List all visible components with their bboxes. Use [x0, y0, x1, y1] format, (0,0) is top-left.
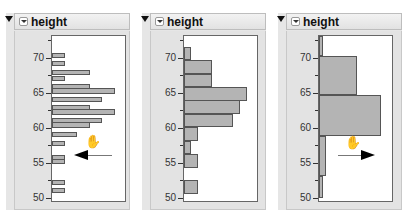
axis-tick [313, 163, 318, 164]
panel-title: height [303, 14, 339, 30]
axis-tick-label: 70 [24, 53, 44, 63]
axis-minor-tick [180, 180, 183, 181]
axis-tick-label: 70 [156, 53, 176, 63]
histogram-bar[interactable] [319, 176, 323, 198]
histogram-bar[interactable] [319, 136, 326, 176]
disclosure-triangle-icon[interactable] [5, 16, 13, 22]
histogram-bar[interactable] [184, 154, 198, 168]
histogram-bar[interactable] [52, 97, 102, 102]
axis-tick [178, 58, 183, 59]
axis-tick-label: 60 [156, 123, 176, 133]
axis-tick [46, 58, 51, 59]
histogram-bar[interactable] [52, 88, 115, 94]
axis-tick [313, 128, 318, 129]
histogram-bar[interactable] [52, 132, 77, 137]
histogram-bar[interactable] [52, 70, 90, 75]
histogram-bar[interactable] [52, 53, 65, 58]
histogram-bar[interactable] [52, 76, 65, 81]
axis-minor-tick [315, 180, 318, 181]
axis-minor-tick [315, 40, 318, 41]
axis-minor-tick [48, 40, 51, 41]
histogram-bar[interactable] [184, 127, 198, 141]
axis-minor-tick [315, 110, 318, 111]
axis-tick [46, 198, 51, 199]
axis-tick-label: 65 [156, 88, 176, 98]
axis-minor-tick [180, 75, 183, 76]
axis-minor-tick [48, 110, 51, 111]
axis-tick-label: 55 [24, 158, 44, 168]
axis-tick-label: 55 [156, 158, 176, 168]
axis-tick [46, 93, 51, 94]
red-triangle-menu-icon[interactable] [155, 17, 164, 26]
axis-tick [313, 198, 318, 199]
axis-tick [46, 128, 51, 129]
arrow-right-icon [361, 150, 375, 160]
histogram-bar[interactable] [319, 36, 323, 56]
axis-tick-label: 50 [24, 193, 44, 203]
grabber-hand-icon: ✋ [345, 136, 361, 149]
axis-tick-label: 55 [291, 158, 311, 168]
arrow-shaft [88, 155, 112, 156]
axis-tick [178, 128, 183, 129]
axis-minor-tick [180, 145, 183, 146]
histogram-bar[interactable] [184, 47, 191, 60]
axis-tick-label: 50 [291, 193, 311, 203]
axis-tick [313, 58, 318, 59]
axis-tick-label: 65 [24, 88, 44, 98]
axis-tick-label: 50 [156, 193, 176, 203]
disclosure-triangle-icon[interactable] [141, 16, 149, 22]
axis-minor-tick [315, 145, 318, 146]
axis-minor-tick [48, 145, 51, 146]
red-triangle-menu-icon[interactable] [19, 17, 28, 26]
axis-tick [178, 163, 183, 164]
arrow-shaft [338, 155, 362, 156]
histogram-bar[interactable] [52, 61, 65, 66]
histogram-bar[interactable] [52, 122, 90, 128]
axis-minor-tick [180, 40, 183, 41]
histogram-bar[interactable] [184, 74, 212, 87]
arrow-left-icon [74, 150, 88, 160]
panel-title: height [167, 14, 203, 30]
axis-tick [313, 93, 318, 94]
axis-tick-label: 65 [291, 88, 311, 98]
panel-title: height [31, 14, 67, 30]
histogram-bar[interactable] [184, 87, 247, 101]
histogram-bar[interactable] [184, 141, 191, 154]
axis-tick [46, 163, 51, 164]
histogram-bar[interactable] [52, 109, 115, 115]
histogram-bar[interactable] [52, 188, 65, 193]
histogram-bar[interactable] [52, 180, 65, 185]
histogram-bar[interactable] [319, 56, 357, 95]
histogram-bar[interactable] [52, 141, 65, 146]
disclosure-triangle-icon[interactable] [277, 16, 285, 22]
axis-minor-tick [180, 110, 183, 111]
histogram-bar[interactable] [184, 100, 240, 114]
axis-tick-label: 70 [291, 53, 311, 63]
axis-minor-tick [48, 180, 51, 181]
axis-tick [178, 198, 183, 199]
axis-tick-label: 60 [291, 123, 311, 133]
histogram-bar[interactable] [319, 95, 381, 136]
axis-tick-label: 60 [24, 123, 44, 133]
grabber-hand-icon: ✋ [85, 135, 101, 148]
panel-header: height [14, 13, 130, 30]
histogram-bar[interactable] [184, 60, 212, 74]
histogram-bar[interactable] [184, 114, 233, 127]
axis-minor-tick [315, 75, 318, 76]
panel-header: height [286, 13, 402, 30]
histogram-bar[interactable] [52, 159, 65, 164]
panel-header: height [150, 13, 266, 30]
axis-tick [178, 93, 183, 94]
histogram-bar[interactable] [184, 180, 198, 194]
red-triangle-menu-icon[interactable] [291, 17, 300, 26]
axis-minor-tick [48, 75, 51, 76]
